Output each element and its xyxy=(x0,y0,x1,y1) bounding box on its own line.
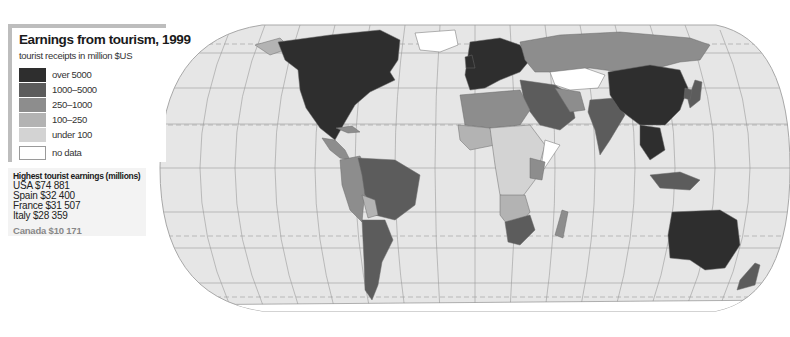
earnings-row: Italy $28 359 xyxy=(13,211,146,221)
legend-item-1000-5000: 1000–5000 xyxy=(19,82,166,97)
legend-item-over-5000: over 5000 xyxy=(19,67,166,82)
earnings-extra: Canada $10 171 xyxy=(13,225,146,236)
legend-label: no data xyxy=(52,147,82,158)
legend-item-250-1000: 250–1000 xyxy=(19,97,166,112)
legend-subtitle: tourist receipts in million $US xyxy=(19,50,166,62)
legend-item-under-100: under 100 xyxy=(19,127,166,142)
swatch-250-1000 xyxy=(19,98,46,112)
swatch-over-5000 xyxy=(19,68,46,82)
swatch-under-100 xyxy=(19,128,46,142)
legend-items: over 5000 1000–5000 250–1000 100–250 und… xyxy=(19,67,166,160)
legend-title: Earnings from tourism, 1999 xyxy=(19,32,166,48)
swatch-100-250 xyxy=(19,113,46,127)
swatch-1000-5000 xyxy=(19,83,46,97)
legend-label: 1000–5000 xyxy=(52,84,97,95)
legend-label: over 5000 xyxy=(52,69,92,80)
legend-label: under 100 xyxy=(52,129,92,140)
legend-label: 100–250 xyxy=(52,114,87,125)
legend-item-no-data: no data xyxy=(19,145,166,160)
swatch-no-data xyxy=(19,146,46,160)
legend: Earnings from tourism, 1999 tourist rece… xyxy=(8,24,166,162)
highest-earnings-box: Highest tourist earnings (millions) USA … xyxy=(8,168,146,236)
legend-item-100-250: 100–250 xyxy=(19,112,166,127)
legend-label: 250–1000 xyxy=(52,99,92,110)
